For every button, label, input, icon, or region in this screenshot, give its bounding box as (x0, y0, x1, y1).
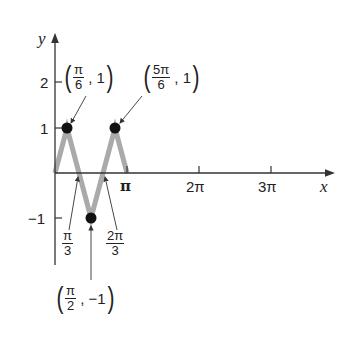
annotation-5pi6: ( 5π6 , 1 ) (142, 62, 201, 92)
point-5pi6 (110, 123, 121, 134)
x-tick-2pi: 2π (186, 179, 205, 194)
x-tick-pi: π (120, 179, 131, 194)
chart-canvas (0, 0, 348, 337)
point-pi2 (86, 213, 97, 224)
annotation-pi6: ( π6 , 1 ) (63, 62, 115, 92)
y-axis-label: y (38, 30, 46, 47)
zero-2pi3: 2π3 (106, 229, 124, 257)
x-tick-3pi: 3π (258, 179, 277, 194)
x-axis-label: x (320, 178, 328, 195)
y-tick-1: 1 (40, 121, 48, 136)
y-tick-neg1: −1 (28, 211, 45, 226)
zero-pi3: π3 (62, 229, 73, 257)
annotation-pi2: ( π2 , −1 ) (55, 283, 116, 313)
point-pi6 (62, 123, 73, 134)
y-tick-2: 2 (40, 75, 48, 90)
